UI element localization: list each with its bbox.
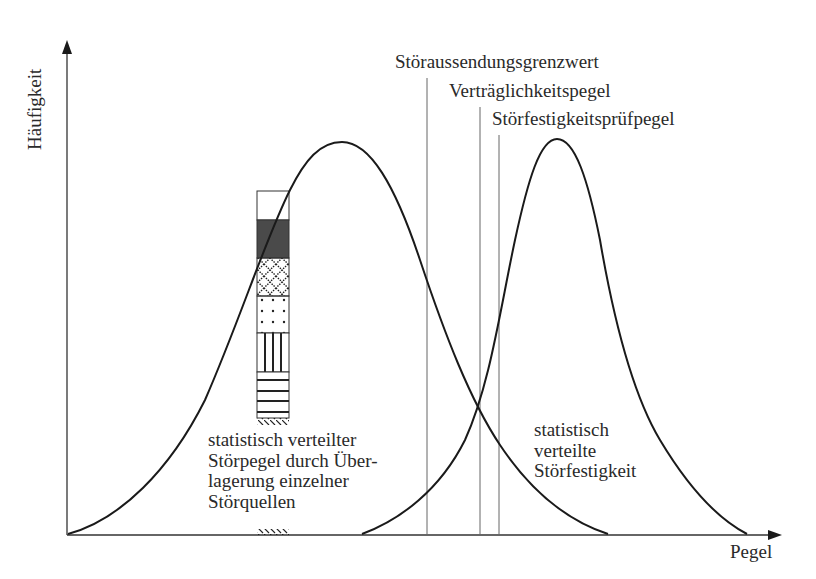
description-line: lagerung einzelner <box>208 471 378 492</box>
description-line: statistisch <box>534 420 636 441</box>
description-line: Störquellen <box>208 492 378 513</box>
description-line: Störfestigkeit <box>534 461 636 482</box>
x-axis-arrow-icon <box>768 530 782 540</box>
x-axis-label: Pegel <box>730 541 772 563</box>
y-axis-arrow-icon <box>62 40 72 54</box>
threshold-label-immunity-test-level: Störfestigkeitsprüfpegel <box>492 108 675 130</box>
description-line: Störpegel durch Über- <box>208 451 378 472</box>
immunity-distribution-description: statistisch verteilte Störfestigkeit <box>534 420 636 482</box>
description-line: statistisch verteilter <box>208 430 378 451</box>
threshold-label-compatibility-level: Verträglichkeitspegel <box>449 80 610 102</box>
y-axis <box>62 40 72 535</box>
x-axis <box>67 530 782 540</box>
y-axis-label: Häufigkeit <box>24 69 46 150</box>
diagram-canvas <box>0 0 816 579</box>
description-line: verteilte <box>534 441 636 462</box>
threshold-label-emission-limit: Störaussendungsgrenzwert <box>395 51 599 73</box>
disturbance-distribution-description: statistisch verteilter Störpegel durch Ü… <box>208 430 378 512</box>
